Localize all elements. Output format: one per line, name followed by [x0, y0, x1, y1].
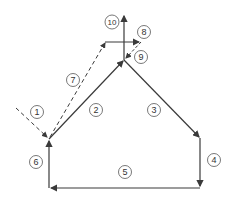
svg-text:2: 2	[93, 105, 98, 115]
label-5: 5	[119, 166, 132, 179]
svg-text:6: 6	[33, 157, 38, 167]
label-2: 2	[90, 104, 103, 117]
svg-text:5: 5	[122, 167, 127, 177]
label-4: 4	[208, 154, 221, 167]
arrow-7-dashed	[50, 43, 105, 137]
arrow-3	[124, 60, 199, 137]
label-10: 10	[105, 15, 119, 29]
svg-text:7: 7	[70, 75, 75, 85]
label-8: 8	[138, 26, 151, 39]
svg-text:10: 10	[108, 18, 117, 27]
label-1: 1	[31, 106, 44, 119]
path-diagram: 1 2 3 4 5 6 7 8 9 10	[0, 0, 233, 200]
svg-text:3: 3	[151, 105, 156, 115]
svg-text:4: 4	[211, 155, 216, 165]
label-6: 6	[30, 156, 43, 169]
svg-text:8: 8	[141, 27, 146, 37]
svg-text:1: 1	[34, 107, 39, 117]
label-7: 7	[67, 74, 80, 87]
arrow-2	[49, 61, 123, 139]
svg-text:9: 9	[138, 52, 143, 62]
label-9: 9	[135, 51, 148, 64]
label-3: 3	[148, 104, 161, 117]
